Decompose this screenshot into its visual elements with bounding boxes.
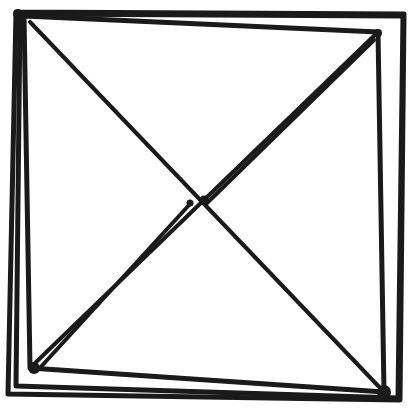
frame-middle — [16, 14, 403, 398]
corner-blob-top-left — [13, 9, 23, 19]
corner-blob-top-right — [374, 29, 382, 37]
center-dot-right — [200, 196, 209, 205]
diagonal-strokes — [30, 22, 384, 392]
square-x-sketch — [0, 0, 409, 416]
diagonal-bottom-left-to-top-right-b — [38, 204, 190, 370]
corner-blob-bottom-left — [28, 362, 40, 374]
diagonal-bottom-left-to-top-right-c — [206, 40, 374, 204]
corner-blob-bottom-right — [377, 385, 391, 399]
center-dot-left — [187, 200, 194, 207]
drawing-canvas: Hand-drawn square with crossed diagonals — [0, 0, 409, 416]
